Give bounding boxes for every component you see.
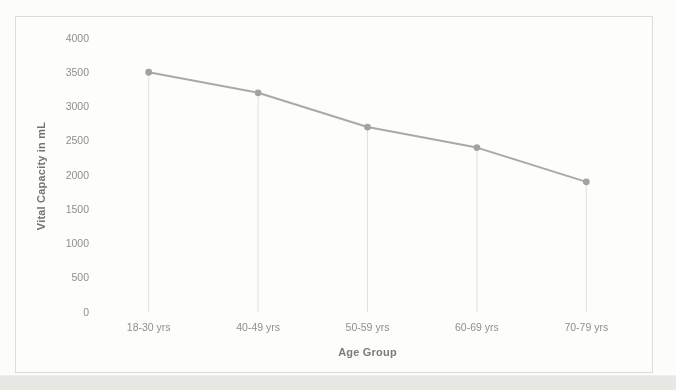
data-point-marker bbox=[474, 144, 481, 151]
x-axis-title: Age Group bbox=[94, 346, 641, 358]
y-tick-label: 2500 bbox=[16, 134, 89, 146]
data-point-marker bbox=[255, 89, 262, 96]
y-tick-label: 0 bbox=[16, 306, 89, 318]
x-tick-label: 18-30 yrs bbox=[94, 321, 204, 333]
photo-bottom-edge bbox=[0, 375, 676, 390]
chart-plot-area: Vital Capacity in mL 0500100015002000250… bbox=[16, 17, 652, 372]
data-point-marker bbox=[145, 69, 152, 76]
data-point-marker bbox=[364, 124, 371, 131]
y-tick-label: 1000 bbox=[16, 237, 89, 249]
x-tick-label: 50-59 yrs bbox=[313, 321, 423, 333]
y-tick-label: 4000 bbox=[16, 32, 89, 44]
data-point-marker bbox=[583, 178, 590, 185]
y-tick-label: 500 bbox=[16, 271, 89, 283]
chart-frame: Vital Capacity in mL 0500100015002000250… bbox=[15, 16, 653, 373]
x-tick-label: 70-79 yrs bbox=[531, 321, 641, 333]
y-tick-label: 3500 bbox=[16, 66, 89, 78]
y-tick-label: 3000 bbox=[16, 100, 89, 112]
y-tick-label: 2000 bbox=[16, 169, 89, 181]
y-tick-label: 1500 bbox=[16, 203, 89, 215]
scanned-page: Vital Capacity in mL 0500100015002000250… bbox=[0, 0, 676, 390]
x-tick-label: 60-69 yrs bbox=[422, 321, 532, 333]
x-tick-label: 40-49 yrs bbox=[203, 321, 313, 333]
